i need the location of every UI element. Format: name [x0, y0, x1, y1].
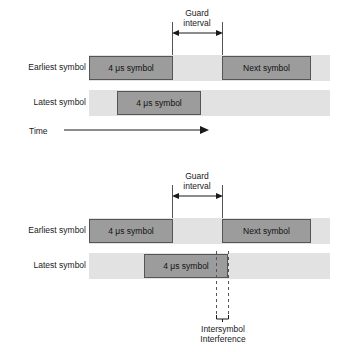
isi-label-line2: Interference: [200, 334, 245, 344]
diagram-guard-interval-no-isi: Guard interval Earliest symbol 4 μs symb…: [0, 0, 337, 150]
isi-label-line1: Intersymbol: [201, 324, 245, 334]
diagram-guard-interval-with-isi: Guard interval Earliest symbol 4 μs symb…: [0, 163, 337, 352]
time-axis-arrow: [0, 0, 337, 150]
isi-caption: Intersymbol Interference: [182, 324, 264, 344]
isi-bracket: [217, 315, 229, 322]
isi-measure: [0, 163, 337, 352]
